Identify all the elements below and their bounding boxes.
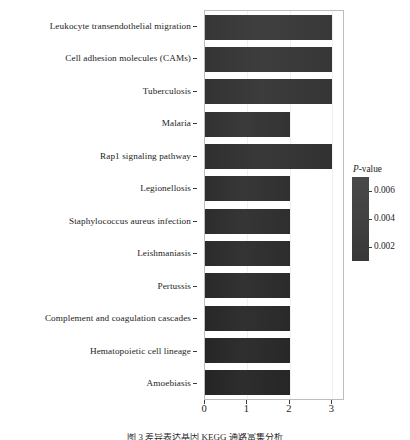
y-axis-tick-label: Staphylococcus aureus infection [69, 217, 191, 226]
y-axis-tick-label: Cell adhesion molecules (CAMs) [65, 54, 191, 63]
y-axis-tick-mark-icon [193, 351, 197, 352]
y-axis-tick-mark-icon [193, 221, 197, 222]
bar-row[interactable] [205, 205, 343, 237]
y-axis-tick-8: Pertussis [0, 270, 198, 303]
bar[interactable] [205, 273, 290, 298]
y-axis-tick-6: Staphylococcus aureus infection [0, 205, 198, 238]
plot-area [204, 10, 344, 400]
x-axis: 0123 [204, 400, 344, 422]
legend-title: P-value [352, 164, 410, 174]
y-axis-tick-label: Legionellosis [140, 184, 191, 193]
bar-row[interactable] [205, 237, 343, 269]
y-axis-tick-label: Complement and coagulation cascades [45, 314, 191, 323]
x-axis-tick-label: 0 [201, 404, 206, 415]
x-axis-tick-label: 1 [244, 404, 249, 415]
y-axis-tick-mark-icon [193, 253, 197, 254]
y-axis-tick-1: Cell adhesion molecules (CAMs) [0, 43, 198, 76]
bar[interactable] [205, 209, 290, 234]
bar-row[interactable] [205, 367, 343, 399]
bar[interactable] [205, 176, 290, 201]
y-axis-tick-0: Leukocyte transendothelial migration [0, 10, 198, 43]
y-axis-tick-2: Tuberculosis [0, 75, 198, 108]
bar-row[interactable] [205, 140, 343, 172]
y-axis-tick-3: Malaria [0, 108, 198, 141]
y-axis-tick-label: Hematopoietic cell lineage [90, 347, 191, 356]
bar[interactable] [205, 370, 290, 395]
y-axis-tick-mark-icon [193, 156, 197, 157]
y-axis-tick-mark-icon [193, 286, 197, 287]
bar-row[interactable] [205, 270, 343, 302]
bar[interactable] [205, 79, 332, 104]
y-axis-tick-10: Hematopoietic cell lineage [0, 335, 198, 368]
y-axis-tick-mark-icon [193, 123, 197, 124]
legend-tick-label: 0.004 [374, 214, 395, 223]
y-axis-tick-4: Rap1 signaling pathway [0, 140, 198, 173]
legend-body: 0.0060.0040.002 [352, 177, 410, 261]
figure-caption: 图 3 差异表达基因 KEGG 通路富集分析 [0, 433, 410, 440]
bar[interactable] [205, 338, 290, 363]
y-axis-tick-11: Amoebiasis [0, 368, 198, 401]
y-axis-tick-mark-icon [193, 383, 197, 384]
bar-row[interactable] [205, 108, 343, 140]
y-axis-tick-label: Leukocyte transendothelial migration [50, 22, 191, 31]
bar-row[interactable] [205, 302, 343, 334]
legend-tick-labels: 0.0060.0040.002 [369, 177, 407, 261]
y-axis-tick-label: Rap1 signaling pathway [100, 152, 191, 161]
y-axis-tick-7: Leishmaniasis [0, 238, 198, 271]
bar-row[interactable] [205, 173, 343, 205]
legend-tick-mark-icon [369, 219, 372, 220]
y-axis-tick-5: Legionellosis [0, 173, 198, 206]
bar[interactable] [205, 241, 290, 266]
y-axis-tick-mark-icon [193, 188, 197, 189]
bar[interactable] [205, 15, 332, 40]
bar-row[interactable] [205, 76, 343, 108]
y-axis-tick-label: Amoebiasis [147, 379, 191, 388]
figure-caption-text: 图 3 差异表达基因 KEGG 通路富集分析 [0, 433, 410, 440]
y-axis-tick-mark-icon [193, 58, 197, 59]
y-axis-category-labels: Leukocyte transendothelial migration Cel… [0, 10, 198, 400]
bar-row[interactable] [205, 11, 343, 43]
y-axis-tick-label: Pertussis [157, 282, 191, 291]
bar-row[interactable] [205, 334, 343, 366]
legend-tick-mark-icon [369, 191, 372, 192]
legend-tick-label: 0.006 [374, 186, 395, 195]
bar-series [205, 11, 343, 399]
legend-tick-mark-icon [369, 247, 372, 248]
bar-row[interactable] [205, 43, 343, 75]
legend-title-rest: -value [359, 164, 382, 174]
y-axis-tick-label: Malaria [162, 119, 191, 128]
bar[interactable] [205, 112, 290, 137]
y-axis-tick-mark-icon [193, 26, 197, 27]
bar[interactable] [205, 306, 290, 331]
x-axis-tick-label: 3 [329, 404, 334, 415]
y-axis-tick-mark-icon [193, 91, 197, 92]
bar-chart: Leukocyte transendothelial migration Cel… [0, 0, 410, 440]
legend-tick-label: 0.002 [374, 242, 395, 251]
bar[interactable] [205, 47, 332, 72]
y-axis-tick-label: Tuberculosis [143, 87, 191, 96]
y-axis-tick-mark-icon [193, 318, 197, 319]
x-axis-tick-label: 2 [286, 404, 291, 415]
legend: P-value 0.0060.0040.002 [352, 164, 410, 261]
y-axis-tick-9: Complement and coagulation cascades [0, 303, 198, 336]
bar[interactable] [205, 144, 332, 169]
legend-colorbar [352, 177, 369, 261]
y-axis-tick-label: Leishmaniasis [137, 249, 191, 258]
